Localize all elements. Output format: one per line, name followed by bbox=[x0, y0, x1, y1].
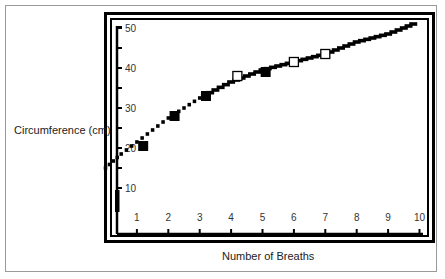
filled-square-marker bbox=[261, 67, 271, 77]
open-square-marker bbox=[233, 72, 242, 81]
open-square-marker bbox=[289, 58, 298, 67]
y-tick-label: 40 bbox=[125, 63, 137, 74]
x-tick-label: 9 bbox=[385, 212, 391, 223]
x-tick-label: 7 bbox=[323, 212, 329, 223]
x-tick-label: 4 bbox=[228, 212, 234, 223]
fitted-curve bbox=[104, 22, 417, 170]
open-square-marker bbox=[321, 50, 330, 59]
x-tick-label: 3 bbox=[197, 212, 203, 223]
x-tick-label: 5 bbox=[260, 212, 266, 223]
axes: 102030405012345678910 bbox=[115, 23, 425, 234]
filled-square-marker bbox=[201, 91, 211, 101]
y-axis-label: Circumference (cm) bbox=[14, 124, 111, 136]
x-tick-label: 1 bbox=[134, 212, 140, 223]
plot-area: 102030405012345678910 bbox=[0, 0, 445, 279]
filled-square-marker bbox=[138, 141, 148, 151]
data-markers bbox=[138, 50, 330, 152]
x-tick-label: 6 bbox=[291, 212, 297, 223]
x-axis-label: Number of Breaths bbox=[222, 250, 314, 262]
y-tick-label: 10 bbox=[125, 183, 137, 194]
y-tick-label: 50 bbox=[125, 23, 137, 34]
x-tick-label: 10 bbox=[414, 212, 426, 223]
y-tick-label: 30 bbox=[125, 103, 137, 114]
x-tick-label: 2 bbox=[166, 212, 172, 223]
x-tick-label: 8 bbox=[354, 212, 360, 223]
filled-square-marker bbox=[170, 111, 180, 121]
